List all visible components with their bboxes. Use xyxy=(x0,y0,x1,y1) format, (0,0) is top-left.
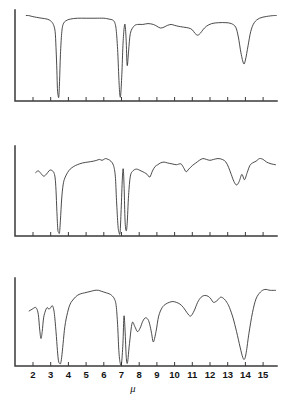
x-tick-label: 5 xyxy=(83,369,89,380)
x-tick-label: 12 xyxy=(205,369,216,380)
x-tick-label: 13 xyxy=(222,369,233,380)
x-tick-label: 9 xyxy=(154,369,159,380)
figure-background xyxy=(0,0,295,410)
x-tick-label: 11 xyxy=(187,369,198,380)
x-tick-label: 8 xyxy=(137,369,142,380)
x-tick-label: 2 xyxy=(30,369,35,380)
x-axis-title: μ xyxy=(129,383,135,394)
spectra-figure: 23456789101112131415 μ xyxy=(0,0,295,410)
x-tick-label: 15 xyxy=(258,369,269,380)
x-tick-label: 10 xyxy=(169,369,180,380)
x-tick-label: 3 xyxy=(48,369,53,380)
x-tick-label: 14 xyxy=(240,369,251,380)
spectra-canvas: 23456789101112131415 μ xyxy=(0,0,295,410)
x-tick-label: 6 xyxy=(101,369,106,380)
x-tick-label: 7 xyxy=(119,369,124,380)
x-tick-label: 4 xyxy=(66,369,72,380)
